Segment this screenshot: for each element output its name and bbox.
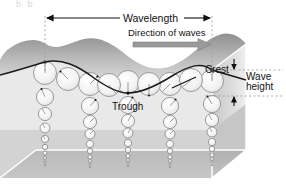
- orbit-marker-dot: [148, 95, 150, 97]
- orbit-circle: [127, 165, 129, 167]
- orbit-circle: [44, 157, 47, 160]
- orbit-circle: [42, 144, 47, 149]
- orbit-circle: [127, 162, 129, 164]
- page-artifact-text: b b: [16, 0, 35, 9]
- orbit-circle: [208, 138, 215, 145]
- orbit-circle: [44, 161, 46, 163]
- direction-arrow-shape: [133, 39, 211, 51]
- orbit-circle: [169, 160, 172, 163]
- orbit-circle: [211, 164, 213, 166]
- orbit-circle: [126, 154, 130, 158]
- orbit-circle: [168, 155, 172, 159]
- orbit-circle: [210, 153, 214, 157]
- orbit-marker-dot: [175, 99, 177, 101]
- orbit-marker-dot: [132, 97, 134, 99]
- orbit-circle: [169, 163, 171, 165]
- trough-dot: [127, 92, 130, 95]
- orbit-circle: [89, 160, 92, 163]
- seafloor: [0, 130, 246, 178]
- orbit-circle: [167, 148, 172, 153]
- orbit-circle: [89, 166, 91, 168]
- direction-of-waves-label: Direction of waves: [128, 28, 206, 38]
- trough-label: Trough: [112, 102, 143, 112]
- orbit-circle: [88, 155, 92, 159]
- orbit-circle: [125, 147, 130, 152]
- orbit-circle: [89, 163, 91, 165]
- orbit-circle: [166, 140, 173, 147]
- orbit-circle: [87, 148, 92, 153]
- orbit-marker-dot: [95, 99, 97, 101]
- orbit-circle: [127, 159, 130, 162]
- direction-arrow: [133, 39, 211, 51]
- orbit-circle: [211, 161, 213, 163]
- orbit-circle: [86, 140, 93, 147]
- wave-height-line-2: height: [246, 82, 273, 92]
- orbit-marker-dot: [96, 75, 98, 77]
- orbit-circle: [43, 151, 47, 155]
- wavelength-label: Wavelength: [123, 13, 178, 24]
- orbit-circle: [211, 158, 214, 161]
- orbit-marker-dot: [41, 88, 43, 90]
- wave-height-label: Wave height: [246, 72, 273, 93]
- orbit-circle: [124, 139, 131, 146]
- orbit-circle: [169, 166, 171, 168]
- wave-diagram-figure: b b Wavelength Direction of waves Crest …: [0, 0, 286, 186]
- orbit-circle: [44, 164, 46, 166]
- crest-label: Crest: [205, 65, 229, 75]
- orbit-circle: [209, 146, 214, 151]
- orbit-marker-dot: [60, 71, 62, 73]
